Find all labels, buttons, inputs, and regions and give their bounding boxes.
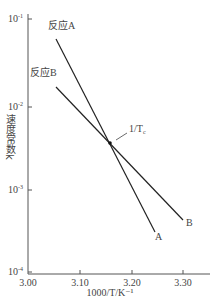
- series-a-end-label: A: [155, 231, 163, 242]
- svg-text:3.00: 3.00: [19, 277, 37, 288]
- intersection-label: 1/Tc: [129, 123, 146, 135]
- svg-text:10-3: 10-3: [8, 184, 23, 195]
- x-ticks: [80, 270, 183, 274]
- y-ticks: [28, 19, 32, 272]
- series-a-label: 反应A: [48, 19, 76, 31]
- x-axis-label: 1000/T/K⁻¹: [62, 287, 158, 298]
- svg-text:10-4: 10-4: [8, 266, 23, 277]
- series-b-line: [56, 87, 183, 220]
- series-b-label: 反应B: [30, 66, 57, 78]
- svg-text:10-2: 10-2: [8, 101, 23, 112]
- intersection-leader: [116, 133, 127, 140]
- series-b-end-label: B: [186, 217, 193, 228]
- svg-text:3.30: 3.30: [174, 277, 192, 288]
- intersection-point: [108, 141, 112, 145]
- svg-text:10-1: 10-1: [8, 13, 23, 24]
- y-axis-label: 速度常数k: [1, 114, 15, 160]
- series-a-line: [56, 39, 155, 232]
